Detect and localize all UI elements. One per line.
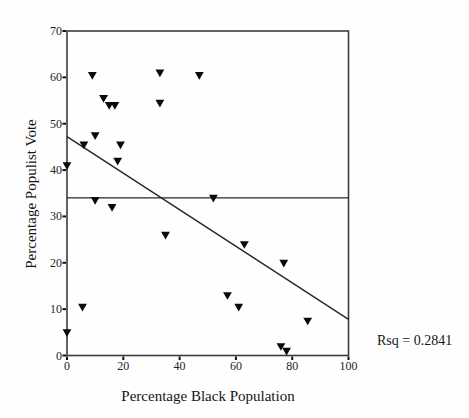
plot-frame — [67, 31, 349, 356]
data-point-marker — [282, 348, 291, 356]
data-point-marker — [303, 318, 312, 326]
regression-line — [67, 137, 349, 320]
y-tick-label: 70 — [30, 24, 62, 38]
x-tick-label: 80 — [276, 359, 308, 373]
data-point-marker — [91, 197, 100, 205]
data-point-marker — [108, 204, 117, 212]
data-point-marker — [223, 292, 232, 300]
data-point-marker — [234, 304, 243, 312]
data-point-marker — [91, 132, 100, 140]
data-point-marker — [279, 260, 288, 268]
scatter-plot-figure: 020406080100010203040506070 Percentage P… — [0, 0, 469, 418]
x-axis-title: Percentage Black Population — [121, 388, 294, 405]
x-tick-label: 60 — [220, 359, 252, 373]
x-tick-label: 100 — [333, 359, 365, 373]
data-point-marker — [240, 241, 249, 249]
y-axis-title: Percentage Populist Vote — [23, 119, 40, 268]
data-point-marker — [209, 195, 218, 203]
rsq-annotation: Rsq = 0.2841 — [377, 333, 452, 349]
data-point-marker — [99, 95, 108, 103]
data-point-marker — [88, 72, 97, 80]
data-point-marker — [78, 304, 87, 312]
data-point-marker — [63, 162, 72, 170]
data-point-marker — [195, 72, 204, 80]
x-tick-label: 40 — [164, 359, 196, 373]
y-tick-label: 10 — [30, 302, 62, 316]
data-point-marker — [161, 232, 170, 240]
y-tick-label: 0 — [30, 349, 62, 363]
plot-canvas — [0, 0, 469, 418]
data-point-marker — [155, 70, 164, 78]
data-point-marker — [116, 141, 125, 149]
data-point-marker — [110, 102, 119, 110]
data-point-marker — [63, 329, 72, 337]
data-point-marker — [155, 100, 164, 108]
y-tick-label: 60 — [30, 70, 62, 84]
data-point-marker — [113, 158, 122, 166]
x-tick-label: 20 — [107, 359, 139, 373]
